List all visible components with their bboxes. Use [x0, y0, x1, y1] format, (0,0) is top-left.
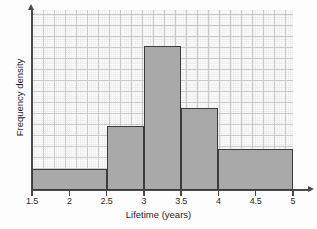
histogram-bar	[181, 108, 218, 190]
histogram-bar	[144, 46, 181, 190]
x-axis-tick-label: 3	[141, 196, 146, 206]
histogram-bar	[32, 169, 107, 190]
x-axis-tick-label: 4.5	[250, 196, 262, 206]
x-axis-tick-label: 4	[216, 196, 221, 206]
x-axis-tick-label: 2.5	[101, 196, 113, 206]
x-axis-tick-label: 2	[67, 196, 72, 206]
bars-layer	[32, 10, 293, 190]
x-axis-arrow-icon	[308, 186, 314, 192]
x-axis-tick-label: 1.5	[26, 196, 38, 206]
histogram-bar	[218, 149, 293, 190]
y-axis-title: Frequency density	[14, 23, 25, 173]
y-axis-line	[31, 9, 33, 191]
histogram-chart: 1.522.533.544.55 Lifetime (years) Freque…	[0, 0, 317, 229]
y-axis-arrow-icon	[28, 4, 34, 10]
x-axis-tick-label: 3.5	[175, 196, 187, 206]
x-axis-title: Lifetime (years)	[0, 209, 317, 220]
histogram-bar	[107, 126, 144, 190]
x-axis-tick-label: 5	[291, 196, 296, 206]
